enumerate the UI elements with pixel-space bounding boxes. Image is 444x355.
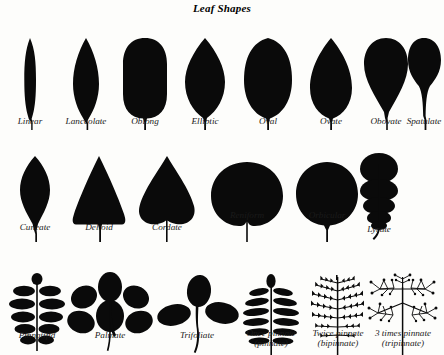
row-base-and-outline-shapes: Cuneate Deltoid Cordate: [0, 130, 444, 242]
leaf-label-deltoid: Deltoid: [85, 222, 113, 233]
leaf-label-twice-pinnate: Twice pinnate (bipinnate): [312, 328, 363, 348]
leaf-label-palmate: Palmate: [95, 330, 126, 341]
leaf-cell-cuneate: Cuneate: [4, 130, 66, 242]
leaf-label-lanceolate: Lanceolate: [66, 116, 107, 127]
leaf-cell-palmate: Palmate: [62, 242, 158, 355]
leaf-label-once-pinnate: Once pinnate (pinnate): [246, 328, 295, 348]
leaf-cell-oblong: Oblong: [112, 18, 178, 130]
leaf-label-lyrate: Lyrate: [367, 224, 391, 235]
leaf-cell-oval: Oval: [234, 18, 302, 130]
leaf-label-three-times-pinnate: 3 times pinnate (tripinnate): [375, 328, 431, 348]
leaf-label-ovate: Ovate: [320, 116, 342, 127]
leaf-cell-elliptic: Elliptic: [172, 18, 238, 130]
leaf-label-elliptic: Elliptic: [191, 116, 218, 127]
three-times-pinnate-label-line1: 3 times pinnate: [375, 328, 431, 338]
leaf-cell-linear: Linear: [2, 18, 58, 130]
leaf-label-reniform: Reniform: [230, 210, 264, 221]
leaf-label-oblong: Oblong: [131, 116, 159, 127]
leaf-label-cordate: Cordate: [152, 222, 182, 233]
twice-pinnate-label-line1: Twice pinnate: [312, 328, 363, 338]
leaf-cell-three-times-pinnate: 3 times pinnate (tripinnate): [362, 242, 444, 355]
leaf-label-linear: Linear: [18, 116, 43, 127]
leaf-label-spatulate: Spatulate: [407, 116, 442, 127]
row-simple-leaf-shapes: Linear Lanceolate Oblong: [0, 18, 444, 130]
leaf-label-obovate: Obovate: [370, 116, 401, 127]
leaf-cell-reniform: Reniform: [203, 130, 291, 242]
reniform-icon: [203, 160, 291, 242]
leaf-label-pinnatifid: Pinnatifid: [19, 330, 56, 341]
leaf-cell-lyrate: Lyrate: [348, 130, 410, 242]
trifoliate-icon: [152, 271, 242, 355]
leaf-label-cuneate: Cuneate: [20, 222, 51, 233]
leaf-cell-once-pinnate: Once pinnate (pinnate): [238, 242, 304, 355]
once-pinnate-label-line1: Once pinnate: [246, 328, 295, 338]
row-divided-and-compound-leaves: Pinnatifid Palmate: [0, 242, 444, 355]
leaf-label-orbicular: Orbicular: [309, 210, 346, 221]
once-pinnate-label-line2: (pinnate): [254, 338, 288, 348]
leaf-cell-ovate: Ovate: [297, 18, 365, 130]
leaf-label-trifoliate: Trifoliate: [180, 330, 214, 341]
palmate-icon: [62, 271, 158, 355]
figure-title: Leaf Shapes: [0, 2, 444, 14]
leaf-cell-trifoliate: Trifoliate: [152, 242, 242, 355]
leaf-cell-deltoid: Deltoid: [62, 130, 136, 242]
leaf-cell-lanceolate: Lanceolate: [55, 18, 117, 130]
twice-pinnate-label-line2: (bipinnate): [318, 338, 359, 348]
leaf-cell-spatulate: Spatulate: [404, 18, 444, 130]
leaf-label-oval: Oval: [259, 116, 277, 127]
leaf-shapes-figure: Leaf Shapes Linear Lanceolate: [0, 0, 444, 355]
three-times-pinnate-label-line2: (tripinnate): [382, 338, 424, 348]
leaf-cell-cordate: Cordate: [130, 130, 204, 242]
